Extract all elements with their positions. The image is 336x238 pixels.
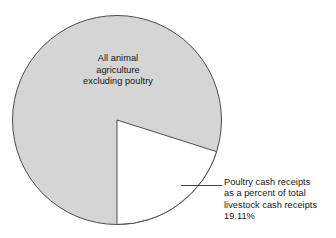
callout-line-3: livestock cash receipts bbox=[224, 200, 336, 211]
callout-line-1: Poultry cash receipts bbox=[224, 177, 336, 188]
callout-label-minor: Poultry cash receipts as a percent of to… bbox=[224, 177, 336, 222]
chart-figure: All animal agriculture excluding poultry… bbox=[0, 0, 336, 238]
callout-line-2: as a percent of total bbox=[224, 188, 336, 199]
callout-value-percent: 19.11% bbox=[224, 211, 336, 222]
